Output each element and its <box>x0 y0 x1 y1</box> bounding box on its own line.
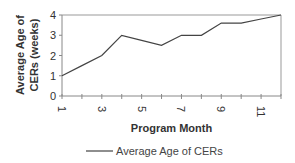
y-tick-label: 2 <box>50 50 56 62</box>
x-tick-label: 11 <box>255 106 267 117</box>
y-tick-label: 1 <box>50 70 56 82</box>
x-axis-label: Program Month <box>131 122 213 134</box>
y-tick-label: 0 <box>50 90 56 102</box>
y-axis-label-line2: CERs (weeks) <box>28 18 40 91</box>
legend-label: Average Age of CERs <box>116 145 223 157</box>
x-tick-label: 3 <box>96 106 108 112</box>
x-tick-label: 5 <box>136 106 148 112</box>
line-chart: 012341357911Average Age ofCERs (weeks)Pr… <box>0 0 295 163</box>
y-tick-label: 4 <box>50 9 56 21</box>
series-line <box>62 15 281 76</box>
x-tick-label: 7 <box>175 106 187 112</box>
y-axis-label-line1: Average Age of <box>14 15 26 95</box>
x-tick-label: 9 <box>215 106 227 112</box>
x-tick-label: 1 <box>56 106 68 112</box>
y-tick-label: 3 <box>50 29 56 41</box>
